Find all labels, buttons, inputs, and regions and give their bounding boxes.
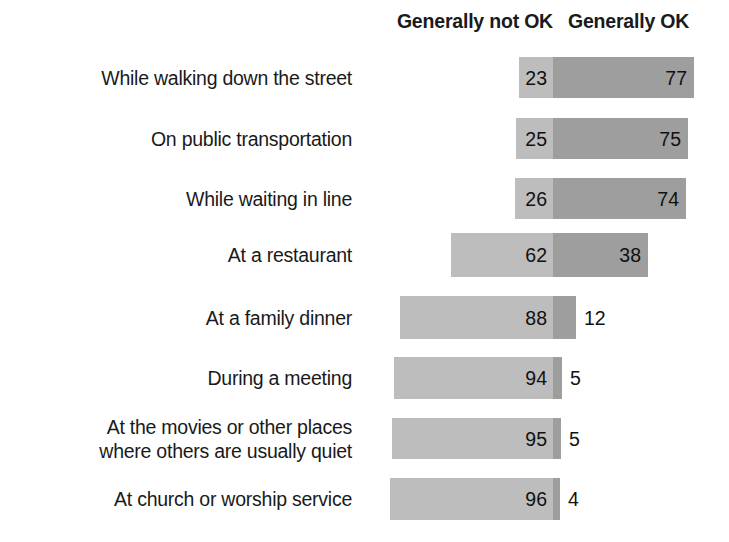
bar-value-ok: 77 xyxy=(665,67,687,89)
chart-row: At the movies or other places where othe… xyxy=(0,418,729,459)
bar-value-ok: 5 xyxy=(569,428,580,450)
bar-group: 2377 xyxy=(0,57,729,98)
bar-value-not-ok: 88 xyxy=(525,307,547,329)
chart-row: During a meeting945 xyxy=(0,357,729,399)
legend-label-generally-not-ok: Generally not OK xyxy=(0,8,553,34)
bar-value-not-ok: 25 xyxy=(525,128,547,150)
bar-value-not-ok: 23 xyxy=(525,67,547,89)
bar-group: 6238 xyxy=(0,233,729,277)
bar-segment-ok: 75 xyxy=(553,118,688,159)
bar-value-not-ok: 96 xyxy=(525,488,547,510)
bar-segment-ok: 38 xyxy=(553,233,648,277)
bar-value-ok: 12 xyxy=(584,307,606,329)
bar-segment-ok: 77 xyxy=(553,57,694,98)
bar-value-ok: 74 xyxy=(657,188,679,210)
chart-row: At a restaurant6238 xyxy=(0,233,729,277)
bar-group: 955 xyxy=(0,418,729,459)
bar-value-not-ok: 62 xyxy=(525,244,547,266)
chart-row: At church or worship service964 xyxy=(0,478,729,520)
bar-value-ok: 38 xyxy=(619,244,641,266)
bar-segment-not-ok: 62 xyxy=(451,233,553,277)
bar-segment-not-ok: 96 xyxy=(390,478,553,520)
bar-value-not-ok: 26 xyxy=(525,188,547,210)
bar-group: 945 xyxy=(0,357,729,399)
bar-segment-not-ok: 25 xyxy=(516,118,553,159)
stacked-bar-chart: Generally not OK Generally OK While walk… xyxy=(0,0,729,542)
bar-group: 8812 xyxy=(0,296,729,339)
bar-group: 2575 xyxy=(0,118,729,159)
chart-row: While walking down the street2377 xyxy=(0,57,729,98)
legend-label-generally-ok: Generally OK xyxy=(568,8,729,34)
bar-segment-ok: 4 xyxy=(553,478,560,520)
bar-segment-not-ok: 23 xyxy=(519,57,553,98)
chart-row: At a family dinner8812 xyxy=(0,296,729,339)
bar-segment-not-ok: 95 xyxy=(392,418,553,459)
bar-group: 964 xyxy=(0,478,729,520)
bar-segment-ok: 74 xyxy=(553,178,686,219)
chart-row: While waiting in line2674 xyxy=(0,178,729,219)
chart-row: On public transportation2575 xyxy=(0,118,729,159)
bar-segment-not-ok: 94 xyxy=(394,357,553,399)
bar-value-ok: 75 xyxy=(659,128,681,150)
bar-value-not-ok: 94 xyxy=(525,367,547,389)
bar-segment-ok: 5 xyxy=(553,357,562,399)
bar-segment-not-ok: 88 xyxy=(400,296,553,339)
bar-value-ok: 5 xyxy=(570,367,581,389)
bar-value-not-ok: 95 xyxy=(525,428,547,450)
bar-value-ok: 4 xyxy=(568,488,579,510)
bar-segment-ok: 5 xyxy=(553,418,561,459)
bar-segment-not-ok: 26 xyxy=(515,178,553,219)
bar-group: 2674 xyxy=(0,178,729,219)
bar-segment-ok: 12 xyxy=(553,296,576,339)
